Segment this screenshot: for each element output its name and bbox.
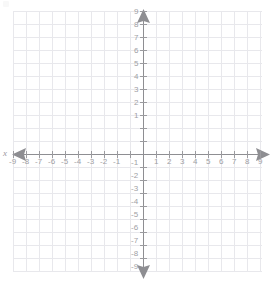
x-tick-label-3: 3 — [180, 158, 184, 166]
coordinate-plane-figure: x -9 -8 -7 -6 -5 -4 -3 -2 -1 1 2 3 4 5 6… — [0, 0, 277, 284]
y-axis — [137, 9, 150, 279]
x-tick-label-9: 9 — [258, 158, 262, 166]
x-tick-label--6: -6 — [48, 158, 55, 166]
x-tick-label-4: 4 — [193, 158, 197, 166]
x-tick-label-8: 8 — [245, 158, 249, 166]
x-tick-label--2: -2 — [100, 158, 107, 166]
y-tick-label--2: -2 — [131, 172, 138, 180]
y-tick-label-6: 6 — [134, 47, 138, 55]
y-tick-label-9: 9 — [134, 8, 138, 16]
y-tick-label--5: -5 — [131, 211, 138, 219]
x-tick-label--8: -8 — [22, 158, 29, 166]
x-tick-label-2: 2 — [167, 158, 171, 166]
x-tick-label-7: 7 — [232, 158, 236, 166]
y-tick-label--6: -6 — [131, 224, 138, 232]
y-tick-label--7: -7 — [131, 237, 138, 245]
y-tick-label--4: -4 — [131, 198, 138, 206]
x-tick-label-6: 6 — [219, 158, 223, 166]
y-tick-label-5: 5 — [134, 60, 138, 68]
x-tick-label--7: -7 — [35, 158, 42, 166]
x-tick-label-1: 1 — [154, 158, 158, 166]
x-tick-label--3: -3 — [87, 158, 94, 166]
y-tick-label--8: -8 — [131, 250, 138, 258]
y-tick-label-4: 4 — [134, 73, 138, 81]
y-tick-label-2: 2 — [134, 99, 138, 107]
y-tick-label--1: -1 — [131, 159, 138, 167]
y-tick-label-1: 1 — [134, 112, 138, 120]
y-tick-label--9: -9 — [131, 263, 138, 271]
x-tick-label-5: 5 — [206, 158, 210, 166]
y-tick-label-7: 7 — [134, 34, 138, 42]
y-tick-label-3: 3 — [134, 86, 138, 94]
x-axis-label: x — [3, 149, 7, 158]
x-tick-label--5: -5 — [61, 158, 68, 166]
x-tick-label--9: -9 — [9, 158, 16, 166]
coordinate-grid-canvas — [0, 0, 277, 284]
y-tick-label--3: -3 — [131, 185, 138, 193]
x-tick-label--1: -1 — [113, 158, 120, 166]
x-tick-label--4: -4 — [74, 158, 81, 166]
y-tick-label-8: 8 — [134, 21, 138, 29]
